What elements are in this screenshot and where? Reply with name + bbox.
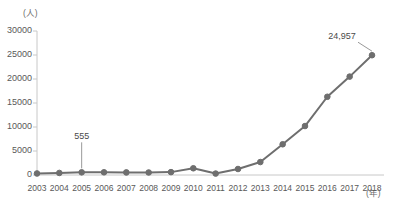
data-point bbox=[168, 169, 174, 175]
y-axis-tick-label: 30000 bbox=[0, 25, 32, 35]
data-point bbox=[258, 159, 264, 165]
chart-axes bbox=[33, 31, 384, 175]
data-point-markers bbox=[34, 52, 375, 176]
x-axis-tick-label: 2018 bbox=[357, 183, 387, 193]
annotation-leader-line bbox=[358, 42, 372, 51]
data-point bbox=[79, 170, 85, 176]
data-point bbox=[369, 52, 375, 58]
data-label-2018: 24,957 bbox=[322, 31, 362, 41]
data-point bbox=[191, 165, 197, 171]
y-axis-tick-label: 10000 bbox=[0, 121, 32, 131]
data-point bbox=[325, 94, 331, 100]
data-point bbox=[347, 74, 353, 80]
data-point bbox=[34, 171, 40, 177]
annotation-leader-lines bbox=[82, 42, 372, 168]
data-point bbox=[302, 123, 308, 129]
data-point bbox=[213, 171, 219, 177]
y-axis-tick-label: 5000 bbox=[0, 145, 32, 155]
line-chart: (人) (年) 050001000015000200002500030000 2… bbox=[0, 0, 396, 202]
data-point bbox=[57, 170, 63, 176]
data-point bbox=[146, 170, 152, 176]
y-axis-tick-label: 0 bbox=[0, 169, 32, 179]
data-point bbox=[101, 170, 107, 176]
y-axis-tick-label: 20000 bbox=[0, 73, 32, 83]
data-point bbox=[235, 166, 241, 172]
data-series-line bbox=[37, 55, 372, 173]
data-label-2005: 555 bbox=[62, 131, 102, 141]
data-point bbox=[280, 141, 286, 147]
y-axis-tick-label: 25000 bbox=[0, 49, 32, 59]
data-point bbox=[124, 170, 130, 176]
y-axis-tick-label: 15000 bbox=[0, 97, 32, 107]
